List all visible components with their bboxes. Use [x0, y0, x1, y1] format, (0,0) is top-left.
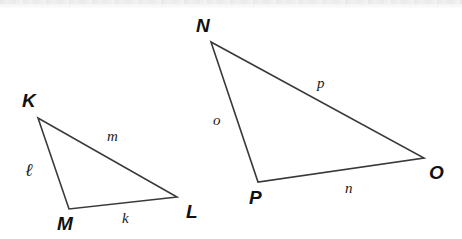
side-label-n: n [345, 181, 353, 196]
vertex-label-o: O [429, 163, 444, 182]
side-label-o: o [213, 113, 221, 128]
vertex-label-l: L [186, 202, 198, 221]
vertex-label-n: N [196, 16, 210, 35]
side-label-ell: ℓ [25, 161, 33, 179]
side-label-m: m [107, 129, 118, 144]
vertex-label-m: M [57, 214, 73, 233]
side-label-k: k [122, 211, 129, 226]
vertex-label-p: P [249, 188, 262, 207]
vertex-label-k: K [22, 91, 36, 110]
triangle-npo-outline [211, 42, 424, 182]
similar-triangles-figure: K M L ℓ m k N P O o p n [0, 0, 462, 239]
side-label-p: p [317, 76, 325, 91]
triangles-svg [0, 0, 462, 239]
